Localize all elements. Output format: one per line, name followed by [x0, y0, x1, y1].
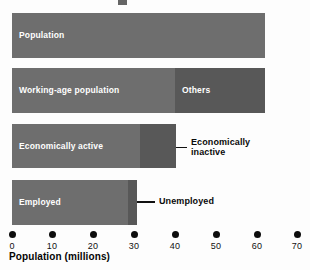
x-tick-label: 10 — [47, 241, 57, 251]
population-breakdown-chart: Population Working-age population Others… — [0, 0, 310, 270]
segment-working-age-population: Working-age population — [12, 68, 175, 113]
bar-economic-activity-split: Economically active — [12, 124, 176, 168]
x-tick-label: 60 — [252, 241, 262, 251]
segment-label-employed: Employed — [12, 198, 61, 207]
callout-economically-inactive: Economically inactive — [176, 138, 250, 157]
plot-area: Population Working-age population Others… — [0, 0, 310, 270]
tick-dot-icon — [294, 231, 301, 238]
x-tick-label: 40 — [170, 241, 180, 251]
segment-unemployed — [128, 180, 137, 225]
callout-unemployed: Unemployed — [137, 197, 214, 207]
tick-dot-icon — [254, 231, 261, 238]
segment-economically-active: Economically active — [12, 124, 140, 168]
bar-employment-split: Employed — [12, 180, 137, 225]
segment-employed: Employed — [12, 180, 128, 225]
callout-label-economically-inactive: Economically inactive — [191, 138, 250, 157]
x-tick-label: 70 — [292, 241, 302, 251]
x-tick-label: 30 — [129, 241, 139, 251]
tick-dot-icon — [9, 231, 16, 238]
x-tick-label: 0 — [9, 241, 14, 251]
x-axis-title: Population (millions) — [9, 251, 110, 262]
tick-dot-icon — [213, 231, 220, 238]
callout-line-2: inactive — [191, 147, 225, 157]
callout-leader-line — [176, 147, 187, 149]
segment-others: Others — [175, 68, 265, 113]
segment-label-others: Others — [175, 86, 210, 95]
tick-dot-icon — [90, 231, 97, 238]
tick-dot-icon — [172, 231, 179, 238]
tick-dot-icon — [131, 231, 138, 238]
callout-leader-line — [137, 201, 155, 203]
x-tick-label: 20 — [88, 241, 98, 251]
segment-label-population: Population — [12, 31, 64, 40]
segment-population: Population — [12, 13, 265, 58]
segment-economically-inactive — [140, 124, 176, 168]
callout-label-unemployed: Unemployed — [159, 197, 214, 207]
segment-label-economically-active: Economically active — [12, 142, 103, 151]
callout-line-1: Economically — [191, 137, 250, 147]
x-tick-label: 50 — [211, 241, 221, 251]
tick-dot-icon — [49, 231, 56, 238]
segment-label-working-age-population: Working-age population — [12, 86, 119, 95]
bar-population: Population — [12, 13, 265, 58]
bar-working-age-split: Working-age population Others — [12, 68, 265, 113]
